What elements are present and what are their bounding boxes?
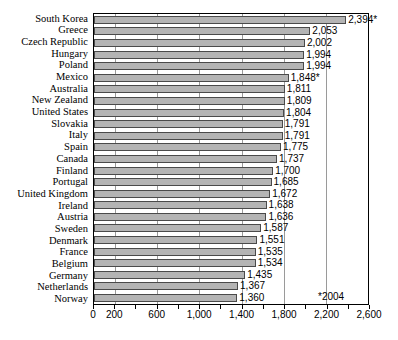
category-label: Slovakia [0,118,91,130]
bar-row: 1,809 [94,95,368,107]
bar [94,51,304,59]
bar [94,97,285,105]
bar-value-label: 1,994 [304,61,331,71]
bar [94,109,284,117]
bar-row: 1,737 [94,153,368,165]
bar [94,248,256,256]
bar [94,294,237,302]
x-tick-label: 2,600 [356,310,381,320]
bar-value-label: 2,002 [305,38,332,48]
bar-row: 1,685 [94,176,368,188]
footnote-annotation: *2004 [318,292,344,302]
bar-value-label: 1,804 [284,108,311,118]
category-label: Sweden [0,223,91,235]
x-tick [348,305,349,309]
bar-value-label: 1,638 [267,200,294,210]
x-tick-label: 1,400 [229,310,254,320]
bar-value-label: 1,636 [266,212,293,222]
bar-row: 1,435 [94,269,368,281]
bar-chart: South KoreaGreeceCzech RepublicHungaryPo… [0,0,398,340]
category-label: Germany [0,270,91,282]
bar-row: 1,587 [94,223,368,235]
bar-value-label: 1,848* [289,73,320,83]
bar-series: 2,394*2,0532,0021,9941,9941,848*1,8111,8… [94,14,368,304]
bar-row: 2,394* [94,14,368,26]
category-label: United Kingdom [0,188,91,200]
bar [94,155,277,163]
bar-row: 2,053 [94,26,368,38]
x-tick-label: 0 [90,310,96,320]
bar [94,143,281,151]
category-label: Canada [0,153,91,165]
bar [94,167,273,175]
bar-row: 2,002 [94,37,368,49]
x-tick-label: 600 [148,310,165,320]
bar-value-label: 1,587 [261,223,288,233]
bar [94,16,346,24]
bar-value-label: 1,672 [270,189,297,199]
bar-row: 1,636 [94,211,368,223]
bar-row: 1,672 [94,188,368,200]
bar [94,213,266,221]
bar-value-label: 1,791 [283,131,310,141]
bar-value-label: 1,700 [273,166,300,176]
bar [94,85,285,93]
x-tick-label: 200 [106,310,123,320]
bar-value-label: 1,809 [285,96,312,106]
bar-value-label: 1,775 [281,142,308,152]
bar-value-label: 1,811 [285,84,311,94]
category-label: United States [0,107,91,119]
bar-row: 1,848* [94,72,368,84]
x-tick-label: 1,000 [187,310,212,320]
bar-row: 1,804 [94,107,368,119]
x-axis-tick-labels: 02006001,0001,4001,8002,2002,600 [93,310,369,326]
bar-value-label: 1,367 [238,281,265,291]
category-label: Hungary [0,48,91,60]
bar-row: 1,811 [94,84,368,96]
x-tick [220,305,221,309]
bar-row: 1,994 [94,60,368,72]
category-label: Portugal [0,177,91,189]
x-tick-label: 1,800 [272,310,297,320]
bar-row: 1,994 [94,49,368,61]
bar-row: 1,791 [94,130,368,142]
bar-row: 1,535 [94,246,368,258]
plot-area: 2,394*2,0532,0021,9941,9941,848*1,8111,8… [93,13,369,305]
category-label: Finland [0,165,91,177]
bar [94,178,272,186]
category-label: Spain [0,142,91,154]
bar-row: 1,775 [94,142,368,154]
x-tick [135,305,136,309]
category-label: Poland [0,60,91,72]
bar [94,132,283,140]
bar [94,190,270,198]
bar-value-label: 1,534 [256,258,283,268]
category-label: France [0,247,91,259]
bar [94,236,257,244]
bar-value-label: 1,360 [237,293,264,303]
x-tick [305,305,306,309]
bar-value-label: 1,994 [304,50,331,60]
bar [94,201,267,209]
bar-value-label: 1,791 [283,119,310,129]
bar-value-label: 1,551 [257,235,284,245]
category-label: Italy [0,130,91,142]
bar [94,27,310,35]
bar [94,39,305,47]
category-label: Australia [0,83,91,95]
bar-value-label: 1,435 [245,270,272,280]
bar [94,224,261,232]
bar [94,271,245,279]
bar-value-label: 1,737 [277,154,304,164]
bar-value-label: 1,535 [256,247,283,257]
category-label: Austria [0,212,91,224]
bar-row: 1,534 [94,257,368,269]
category-label: Ireland [0,200,91,212]
x-tick-label: 2,200 [314,310,339,320]
category-label: Greece [0,25,91,37]
bar [94,282,238,290]
bar-value-label: 1,685 [272,177,299,187]
bar-row: 1,551 [94,234,368,246]
bar-row: 1,700 [94,165,368,177]
bar-row: 1,638 [94,200,368,212]
